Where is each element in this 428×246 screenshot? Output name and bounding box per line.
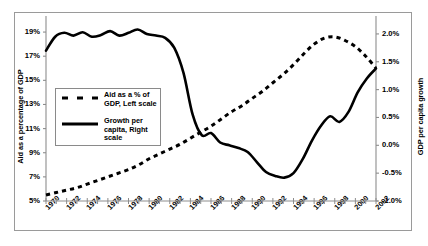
chart-container: Aid as a percentage of GDP GDP per capit… [0, 0, 428, 246]
legend-item-growth: Growth per capita, Right scale [56, 117, 160, 143]
legend-label-aid: Aid as a % of GDP, Left scale [104, 91, 160, 108]
legend-label-growth-line3: scale [104, 134, 160, 143]
legend-label-aid-line2: GDP, Left scale [104, 100, 160, 109]
legend-swatch-dashed-line [61, 96, 99, 100]
legend-item-aid: Aid as a % of GDP, Left scale [56, 91, 160, 117]
chart-legend: Aid as a % of GDP, Left scale Growth per… [55, 88, 161, 146]
legend-label-growth: Growth per capita, Right scale [104, 117, 160, 143]
legend-swatch-solid-line [61, 122, 99, 126]
